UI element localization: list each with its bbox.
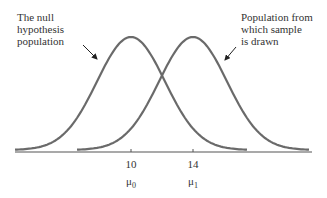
null-arrow-icon xyxy=(83,45,97,59)
tick-label-14: 14 xyxy=(188,158,199,170)
distribution-diagram xyxy=(0,0,327,198)
mu-subscript: 1 xyxy=(194,181,198,190)
mu-subscript: 0 xyxy=(132,181,136,190)
sample-arrow-icon xyxy=(225,47,236,60)
mu0-label: μ0 xyxy=(126,175,136,190)
mu1-label: μ1 xyxy=(188,175,198,190)
tick-label-10: 10 xyxy=(126,158,137,170)
